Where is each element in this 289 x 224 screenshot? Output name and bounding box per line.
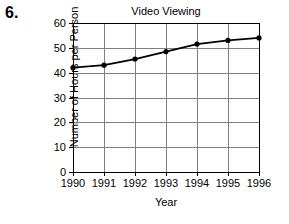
- x-tick-label: 1991: [92, 177, 116, 189]
- plot-axes: [69, 24, 260, 177]
- line-chart-plot: 0102030405060 19901991199219931994199519…: [0, 0, 289, 224]
- figure-container: 6. Video Viewing Number of Hours per Per…: [0, 0, 289, 224]
- x-tick-label: 1996: [247, 177, 271, 189]
- y-tick-label: 40: [54, 67, 66, 79]
- data-point-marker: [163, 49, 168, 54]
- y-tick-label: 50: [54, 42, 66, 54]
- data-point-marker: [194, 42, 199, 47]
- data-point-marker: [225, 38, 230, 43]
- y-tick-label: 60: [54, 17, 66, 29]
- x-tick-label: 1992: [123, 177, 147, 189]
- data-point-marker: [256, 35, 261, 40]
- data-point-marker: [70, 65, 75, 70]
- x-tick-label: 1993: [154, 177, 178, 189]
- x-tick-label: 1990: [61, 177, 85, 189]
- data-point-marker: [101, 63, 106, 68]
- y-tick-label: 20: [54, 116, 66, 128]
- y-tick-label: 30: [54, 92, 66, 104]
- y-tick-label: 10: [54, 141, 66, 153]
- y-axis-tick-labels: 0102030405060: [54, 17, 66, 178]
- x-axis-tick-labels: 1990199119921993199419951996: [61, 177, 271, 189]
- data-point-marker: [132, 56, 137, 61]
- grid-lines: [73, 23, 259, 172]
- x-tick-label: 1995: [216, 177, 240, 189]
- x-tick-label: 1994: [185, 177, 209, 189]
